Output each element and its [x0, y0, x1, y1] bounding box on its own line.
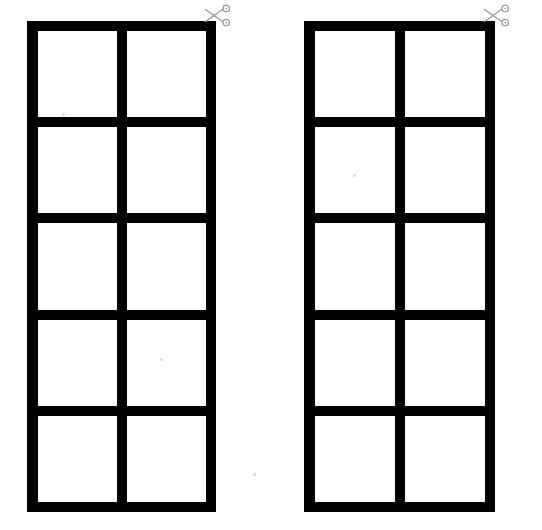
- grid-cell[interactable]: [405, 416, 485, 502]
- grid-cell[interactable]: [38, 127, 117, 213]
- grid-cell[interactable]: [127, 416, 206, 502]
- page-title: Cut-Out Grid Worksheet: [0, 0, 1, 1]
- right-panel-label: Right cut-out grid: [0, 0, 1, 1]
- scan-speckle: [253, 473, 256, 476]
- left-panel-label: Left cut-out grid: [0, 0, 1, 1]
- grid-cell[interactable]: [405, 320, 485, 406]
- grid-cell[interactable]: [405, 223, 485, 309]
- grid-cell[interactable]: [405, 127, 485, 213]
- grid-cell[interactable]: [405, 31, 485, 117]
- grid-cell[interactable]: [315, 416, 395, 502]
- grid-cell[interactable]: [315, 31, 395, 117]
- grid-cell[interactable]: [38, 223, 117, 309]
- left-grid-panel[interactable]: [27, 21, 216, 512]
- right-cut-marker-label: Cut here: [0, 0, 1, 1]
- left-cut-marker-label: Cut here: [0, 0, 1, 1]
- grid-cell[interactable]: [38, 416, 117, 502]
- left-grid-body: [38, 31, 206, 502]
- worksheet-canvas: Left cut-out grid Right cut-out grid Cut…: [0, 0, 542, 530]
- grid-cell[interactable]: [315, 223, 395, 309]
- grid-cell[interactable]: [38, 31, 117, 117]
- grid-cell[interactable]: [38, 320, 117, 406]
- grid-cell[interactable]: [127, 31, 206, 117]
- right-grid-body: [315, 31, 485, 502]
- right-grid-panel[interactable]: [304, 21, 495, 512]
- grid-cell[interactable]: [315, 127, 395, 213]
- grid-cell[interactable]: [127, 223, 206, 309]
- grid-cell[interactable]: [315, 320, 395, 406]
- grid-cell[interactable]: [127, 127, 206, 213]
- grid-cell[interactable]: [127, 320, 206, 406]
